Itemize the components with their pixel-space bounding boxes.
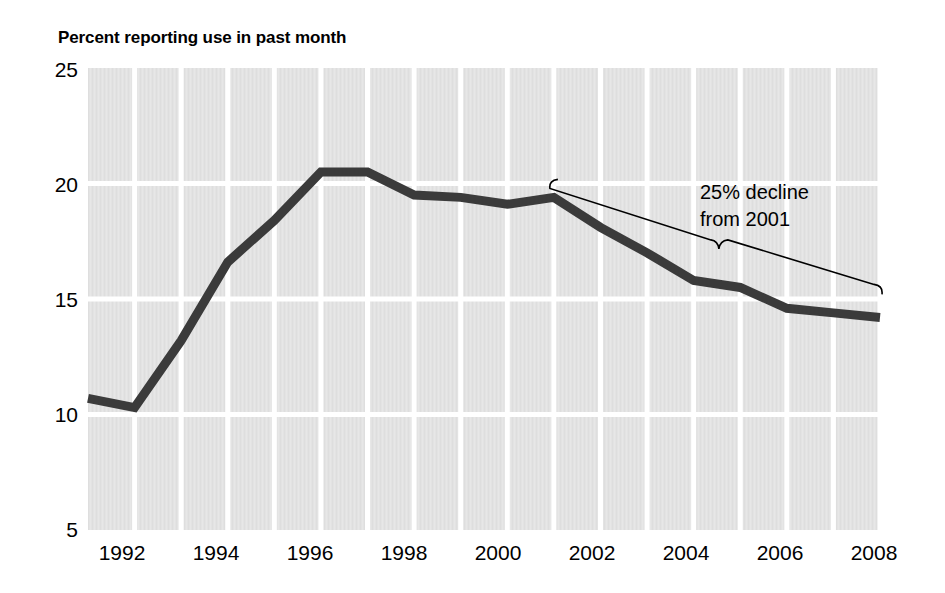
x-tick-label-1998: 1998 [364,541,444,565]
x-tick-label-2004: 2004 [646,541,726,565]
chart-container: Percent reporting use in past month 25 2… [0,0,945,593]
x-tick-label-2008: 2008 [834,541,914,565]
annotation-line-1: 25% decline [700,181,809,204]
x-tick-label-1996: 1996 [270,541,350,565]
y-tick-label-5: 5 [38,518,78,542]
y-tick-label-15: 15 [38,288,78,312]
y-tick-label-25: 25 [38,58,78,82]
x-tick-label-1992: 1992 [82,541,162,565]
chart-plot-svg [0,0,945,593]
x-tick-label-2006: 2006 [740,541,820,565]
annotation-line-2: from 2001 [700,208,790,231]
y-tick-label-20: 20 [38,173,78,197]
x-tick-label-2000: 2000 [458,541,538,565]
y-tick-label-10: 10 [38,403,78,427]
x-tick-label-1994: 1994 [176,541,256,565]
x-tick-label-2002: 2002 [552,541,632,565]
